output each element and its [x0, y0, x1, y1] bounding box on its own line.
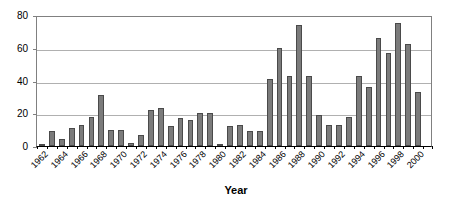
- bar: [267, 79, 273, 146]
- bar: [257, 131, 263, 146]
- x-tick-label: 2000: [401, 149, 426, 174]
- x-axis-title: Year: [0, 184, 472, 196]
- bar: [158, 108, 164, 146]
- bar: [89, 117, 95, 146]
- bar: [79, 125, 85, 146]
- bar: [316, 115, 322, 146]
- x-axis: 1962196419661968197019721974197619781980…: [36, 149, 432, 183]
- y-tick-label: 60: [17, 44, 28, 54]
- bar: [227, 126, 233, 146]
- bar: [415, 92, 421, 146]
- bar: [296, 25, 302, 146]
- x-tick-mark: [432, 146, 433, 149]
- bar: [188, 120, 194, 146]
- bar: [148, 110, 154, 146]
- bar: [336, 125, 342, 146]
- bar: [366, 87, 372, 146]
- bar: [207, 113, 213, 146]
- x-tick-label: 1966: [64, 149, 89, 174]
- y-axis: 020406080: [0, 0, 34, 204]
- x-tick-label: 1994: [341, 149, 366, 174]
- bars-series: [37, 17, 431, 146]
- bar: [39, 144, 45, 146]
- bar: [356, 76, 362, 146]
- y-tick-label: 20: [17, 109, 28, 119]
- bar: [59, 139, 65, 146]
- x-tick-label: 1980: [203, 149, 228, 174]
- y-tick-label: 80: [17, 11, 28, 21]
- x-tick-label: 1982: [223, 149, 248, 174]
- plot-area: [36, 16, 432, 147]
- x-tick-label: 1992: [322, 149, 347, 174]
- bar: [306, 76, 312, 146]
- bar-chart: 020406080 196219641966196819701972197419…: [0, 0, 472, 204]
- x-tick-label: 1990: [302, 149, 327, 174]
- bar: [69, 128, 75, 146]
- bar: [49, 131, 55, 146]
- bar: [277, 48, 283, 146]
- bar: [287, 76, 293, 146]
- bar: [326, 125, 332, 146]
- bar: [405, 44, 411, 146]
- bar: [108, 130, 114, 146]
- x-tick-label: 1984: [242, 149, 267, 174]
- bar: [197, 113, 203, 146]
- bar: [386, 53, 392, 146]
- bar: [98, 95, 104, 146]
- y-tick-label: 40: [17, 77, 28, 87]
- x-tick-label: 1976: [163, 149, 188, 174]
- bar: [376, 38, 382, 146]
- x-tick-label: 1974: [143, 149, 168, 174]
- x-tick-label: 1964: [44, 149, 69, 174]
- x-tick-label: 1970: [104, 149, 129, 174]
- bar: [247, 131, 253, 146]
- x-tick-label: 1972: [124, 149, 149, 174]
- bar: [217, 144, 223, 146]
- bar: [395, 23, 401, 146]
- bar: [178, 118, 184, 146]
- y-tick-label: 0: [22, 142, 28, 152]
- bar: [168, 126, 174, 146]
- x-tick-label: 1986: [262, 149, 287, 174]
- bar: [346, 117, 352, 146]
- bar: [138, 135, 144, 146]
- bar: [128, 143, 134, 146]
- bar: [118, 130, 124, 146]
- bar: [237, 125, 243, 146]
- x-tick-label: 1996: [361, 149, 386, 174]
